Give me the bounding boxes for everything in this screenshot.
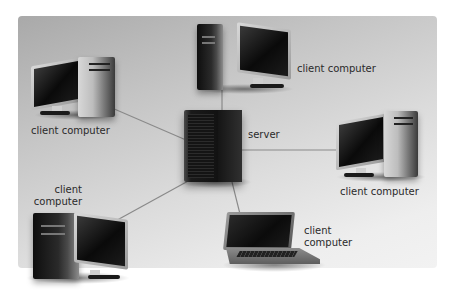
monitor-stand	[40, 111, 70, 115]
monitor-icon	[237, 22, 291, 80]
monitor-stand	[250, 84, 284, 88]
monitor-stand	[88, 275, 120, 279]
monitor-stand	[344, 173, 374, 177]
server-icon	[184, 110, 242, 182]
client-right-label: client computer	[340, 186, 419, 198]
monitor-icon	[336, 114, 386, 171]
client-bottom-left-label-line1: client	[38, 184, 82, 196]
client-laptop-label-line2: computer	[304, 237, 352, 249]
tower-icon	[197, 24, 223, 90]
client-bottom-left-label-line2: computer	[20, 196, 82, 208]
server-label: server	[248, 129, 280, 141]
link-server-client-left	[112, 108, 186, 140]
laptop-keyboard	[236, 251, 297, 257]
tower-icon	[384, 111, 418, 177]
client-top-label: client computer	[297, 63, 376, 75]
tower-icon	[33, 213, 79, 279]
tower-icon	[78, 57, 115, 117]
monitor-icon	[31, 58, 81, 111]
client-laptop-label-line1: client	[304, 225, 331, 237]
laptop-icon	[223, 212, 295, 250]
monitor-icon	[74, 212, 128, 270]
client-left-label: client computer	[31, 125, 110, 137]
